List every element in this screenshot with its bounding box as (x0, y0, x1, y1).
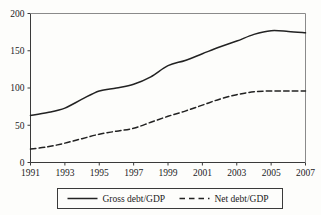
x-axis-tick-labels: 199119931995199719992001200320052007 (21, 168, 315, 178)
y-axis-tick-label: 50 (15, 121, 25, 131)
x-axis-tick-label: 2007 (296, 168, 315, 178)
chart-background (0, 0, 321, 215)
x-axis-tick-label: 2005 (262, 168, 281, 178)
x-axis-tick-label: 2001 (193, 168, 212, 178)
y-axis-tick-label: 200 (10, 9, 25, 19)
y-axis-tick-label: 150 (10, 46, 25, 56)
x-axis-tick-label: 1993 (55, 168, 74, 178)
chart-figure: 050100150200 199119931995199719992001200… (0, 0, 321, 215)
x-axis-tick-label: 1997 (124, 168, 143, 178)
debt-to-gdp-line-chart: 050100150200 199119931995199719992001200… (0, 0, 321, 215)
x-axis-tick-label: 1999 (159, 168, 178, 178)
legend-label-net-debt-gdp: Net debt/GDP (215, 194, 269, 204)
x-axis-tick-label: 1991 (21, 168, 40, 178)
chart-legend: Gross debt/GDPNet debt/GDP (58, 189, 283, 209)
x-axis-tick-label: 2003 (227, 168, 246, 178)
legend-label-gross-debt-gdp: Gross debt/GDP (103, 194, 166, 204)
y-axis-tick-label: 100 (10, 83, 25, 93)
x-axis-tick-label: 1995 (90, 168, 109, 178)
y-axis-tick-label: 0 (20, 158, 25, 168)
